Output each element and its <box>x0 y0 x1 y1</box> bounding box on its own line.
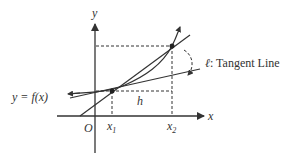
h-label: h <box>137 94 143 108</box>
tangent-label: ℓ: Tangent Line <box>205 56 280 70</box>
function-label: y = f(x) <box>11 90 48 104</box>
point-x1 <box>110 89 115 94</box>
x2-label: x2 <box>166 119 176 135</box>
origin-label: O <box>84 121 93 135</box>
y-axis-label: y <box>91 6 98 20</box>
x1-label: x1 <box>106 119 116 135</box>
function-curve <box>70 27 180 94</box>
x-axis-label: x <box>207 109 214 123</box>
point-x2 <box>170 44 175 49</box>
tangent-line-diagram: y x O x1 x2 h y = f(x) ℓ: Tangent Line <box>0 0 298 159</box>
tangent-line <box>70 69 200 98</box>
